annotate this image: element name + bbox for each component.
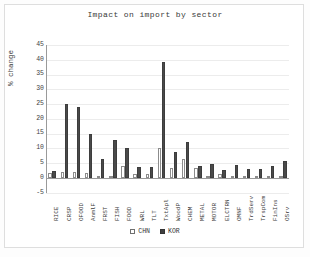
bar-kor-crsp: [65, 104, 68, 178]
bar-chn-trspcom: [255, 176, 258, 178]
bar-chn-rice: [48, 173, 51, 178]
y-axis-title: % change: [7, 26, 15, 86]
y-axis-title-label: % change: [7, 50, 15, 86]
x-tick-label-anmlf: AnmlF: [91, 203, 97, 221]
bar-group: [265, 45, 277, 178]
legend-swatch-chn-icon: [130, 229, 135, 234]
bar-chn-crsp: [61, 172, 64, 179]
bar-group: [70, 45, 82, 178]
bar-chn-fish: [109, 176, 112, 178]
bar-chn-metal: [194, 168, 197, 178]
x-tick-label-wrl: WRL: [140, 210, 146, 221]
bar-group: [216, 45, 228, 178]
bar-group: [107, 45, 119, 178]
x-tick-label-food: FOOD: [127, 207, 133, 221]
bar-chn-chem: [182, 159, 185, 178]
bar-group: [155, 45, 167, 178]
bar-group: [58, 45, 70, 178]
legend-item-kor[interactable]: KOR: [160, 228, 180, 235]
bar-kor-trspcom: [259, 169, 262, 178]
bar-kor-chem: [186, 142, 189, 178]
bar-group: [228, 45, 240, 178]
bar-group: [143, 45, 155, 178]
bar-group: [240, 45, 252, 178]
bar-kor-rice: [52, 171, 55, 178]
y-tick-label-10: 10: [24, 145, 44, 152]
x-tick-label-elctrn: ELCTRN: [225, 199, 231, 221]
legend-swatch-kor-icon: [160, 229, 165, 234]
y-tick-label-0: 0: [24, 175, 44, 182]
bar-chn-wrl: [133, 174, 136, 178]
bar-group: [131, 45, 143, 178]
bar-group: [277, 45, 289, 178]
bar-kor-motor: [210, 164, 213, 178]
bar-chn-anmlf: [85, 173, 88, 178]
x-tick-label-motor: MOTOR: [212, 203, 218, 221]
x-tick-label-frst: FRST: [103, 207, 109, 221]
bar-chn-food: [121, 166, 124, 178]
bar-chn-elctrn: [218, 174, 221, 178]
bar-group: [46, 45, 58, 178]
legend-item-chn[interactable]: CHN: [130, 228, 150, 235]
bar-group: [192, 45, 204, 178]
bar-chn-ofood: [73, 172, 76, 178]
bar-chn-motor: [206, 176, 209, 178]
y-tick-label-5: 5: [24, 160, 44, 167]
bar-kor-elctrn: [222, 170, 225, 178]
bar-chn-trdserv: [243, 176, 246, 178]
bar-chn-omnf: [231, 176, 234, 178]
y-tick-label-25: 25: [24, 101, 44, 108]
x-tick-label-trdserv: TrdServ: [249, 196, 255, 221]
bar-kor-tlt: [150, 167, 153, 178]
chart-legend: CHNKOR: [0, 228, 310, 235]
y-tick-label-30: 30: [24, 86, 44, 93]
bar-kor-woodp: [174, 152, 177, 178]
bar-chn-finins: [267, 176, 270, 178]
bar-kor-omnf: [235, 165, 238, 178]
y-tick-label-15: 15: [24, 130, 44, 137]
legend-label: KOR: [168, 228, 180, 235]
y-tick-label-45: 45: [24, 42, 44, 49]
bar-kor-ofood: [77, 107, 80, 178]
x-tick-label-osrv: OSrv: [285, 207, 291, 221]
x-tick-label-fish: FISH: [115, 207, 121, 221]
bar-group: [204, 45, 216, 178]
y-tick-label-35: 35: [24, 71, 44, 78]
bar-kor-food: [125, 148, 128, 178]
bar-kor-osrv: [283, 161, 286, 178]
x-tick-label-woodp: WoodP: [176, 203, 182, 221]
bar-kor-frst: [101, 159, 104, 179]
chart-container: Impact on import by sector % change -505…: [0, 0, 310, 257]
bar-kor-txtapl: [162, 62, 165, 178]
y-tick-label-20: 20: [24, 116, 44, 123]
x-tick-label-metal: METAL: [200, 203, 206, 221]
bar-group: [95, 45, 107, 178]
bar-kor-metal: [198, 166, 201, 178]
bar-group: [180, 45, 192, 178]
bars-layer: [46, 45, 289, 178]
x-tick-label-trspcom: TrspCom: [261, 196, 267, 221]
bar-kor-finins: [271, 166, 274, 178]
x-tick-label-omnf: OMNF: [237, 207, 243, 221]
bar-group: [82, 45, 94, 178]
x-tick-label-chem: CHEM: [188, 207, 194, 221]
x-tick-label-finins: FinIns: [273, 199, 279, 221]
x-tick-label-rice: RICE: [54, 207, 60, 221]
bar-kor-wrl: [137, 167, 140, 178]
bar-chn-tlt: [146, 174, 149, 178]
y-tick-label--5: -5: [24, 190, 44, 197]
bar-group: [119, 45, 131, 178]
x-axis-tick-labels: RICECRSPOFOODAnmlFFRSTFISHFOODWRLTLTTxtA…: [46, 180, 289, 224]
bar-chn-woodp: [170, 168, 173, 178]
chart-title: Impact on import by sector: [0, 10, 310, 19]
x-tick-label-tlt: TLT: [152, 210, 158, 221]
bar-kor-trdserv: [247, 169, 250, 178]
x-axis-line: [46, 178, 289, 179]
legend-label: CHN: [138, 228, 150, 235]
bar-kor-anmlf: [89, 134, 92, 178]
bar-chn-osrv: [279, 176, 282, 178]
y-axis-tick-labels: -5051015202530354045: [20, 0, 44, 257]
bar-chn-frst: [97, 176, 100, 178]
bar-kor-fish: [113, 140, 116, 178]
bar-group: [168, 45, 180, 178]
